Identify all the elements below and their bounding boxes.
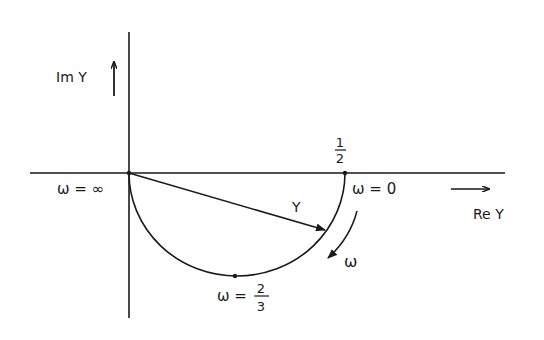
vector-label: Y bbox=[291, 199, 301, 215]
end-omega-label: ω = 0 bbox=[352, 180, 396, 198]
origin-point bbox=[127, 171, 131, 175]
end-point bbox=[343, 171, 347, 175]
end-value-numerator: 1 bbox=[336, 135, 344, 150]
omega-direction-arrow-icon bbox=[328, 211, 357, 258]
imag-axis-label: Im Y bbox=[56, 69, 87, 85]
real-axis-label: Re Y bbox=[473, 206, 504, 222]
locus-semicircle bbox=[129, 173, 345, 276]
bottom-omega-label: ω = bbox=[217, 287, 247, 305]
bottom-value-numerator: 2 bbox=[257, 281, 265, 296]
end-value-denominator: 2 bbox=[336, 151, 344, 166]
omega-direction-label: ω bbox=[344, 252, 357, 271]
bottom-point bbox=[233, 274, 237, 278]
origin-omega-label: ω = ∞ bbox=[57, 180, 104, 198]
locus-diagram: Im Y Re Y ω = ∞ ω = 0 1 2 Y ω ω = 2 3 bbox=[0, 0, 544, 340]
bottom-value-denominator: 3 bbox=[257, 299, 265, 314]
